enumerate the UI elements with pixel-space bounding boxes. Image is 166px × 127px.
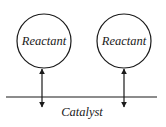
reactant-node-2: Reactant <box>97 14 151 68</box>
catalyst-label: Catalyst <box>61 105 103 119</box>
reactant-label: Reactant <box>101 34 147 48</box>
diagram-canvas: Reactant Reactant Catalyst <box>0 0 166 127</box>
reactant-label: Reactant <box>21 34 67 48</box>
reactant-node-1: Reactant <box>17 14 71 68</box>
